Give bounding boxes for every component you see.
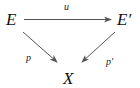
label-p-prime: p′ [106, 57, 113, 67]
label-p: p [26, 53, 31, 63]
node-e-prime: E′ [117, 11, 131, 28]
node-e: E [6, 11, 16, 28]
label-u: u [64, 2, 69, 12]
node-x: X [63, 70, 73, 87]
